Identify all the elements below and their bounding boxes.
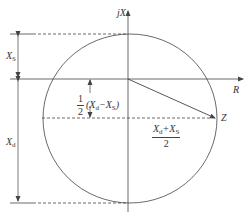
r-axis-label: R: [233, 85, 239, 95]
xs-label: XS: [6, 51, 16, 63]
half-num: 1: [77, 94, 84, 106]
z-label: Z: [221, 113, 227, 123]
half-den: 2: [77, 106, 84, 117]
z-text: Z: [221, 112, 227, 123]
xd-sub: d: [12, 141, 16, 149]
impedance-circle: [43, 34, 217, 203]
mean-s2: S: [175, 128, 179, 136]
half-diff-expression: (Xd−XS): [86, 100, 119, 112]
jx-axis-label: jX: [117, 8, 126, 18]
impedance-circle-diagram: [0, 0, 247, 212]
mean-plus: +X: [163, 123, 176, 134]
xs-sub: S: [12, 55, 16, 63]
hd-mid: −X: [99, 99, 112, 110]
z-vector: [128, 79, 215, 118]
xd-label: Xd: [6, 137, 16, 149]
mean-fraction: Xd+XS 2: [152, 124, 180, 149]
hd-post: ): [116, 99, 119, 110]
mean-den: 2: [152, 138, 180, 149]
r-text: R: [233, 84, 239, 95]
half-diff-fraction: 1 2: [77, 94, 84, 117]
jx-text: jX: [117, 7, 126, 18]
